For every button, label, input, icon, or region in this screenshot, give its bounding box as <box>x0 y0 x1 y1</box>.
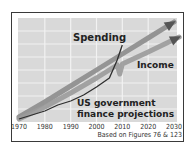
annotation-spending: Spending <box>73 32 126 43</box>
annotation-title-line2: finance projections <box>77 109 174 119</box>
x-tick-label: 2000 <box>88 123 104 131</box>
x-tick-label: 2030 <box>166 123 182 131</box>
x-tick-label: 1980 <box>37 123 53 131</box>
x-tick-label: 1990 <box>63 123 79 131</box>
x-tick-label: 1970 <box>11 123 27 131</box>
annotation-title-line1: US government <box>77 98 156 108</box>
x-tick-label: 2020 <box>140 123 156 131</box>
x-axis-ticks: 1970198019902000201020202030 <box>11 123 182 131</box>
x-tick-label: 2010 <box>114 123 130 131</box>
projection-chart: Spending Income US government finance pr… <box>0 0 196 154</box>
annotation-income: Income <box>137 60 174 70</box>
source-note: Based on Figures 76 & 123 <box>97 131 182 139</box>
